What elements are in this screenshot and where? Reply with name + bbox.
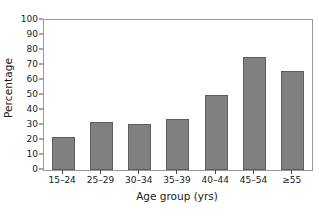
bar [243, 57, 266, 170]
x-axis-tick-mark [253, 170, 254, 174]
y-axis-tick-label: 30 [27, 120, 38, 129]
x-axis-tick-slot [43, 170, 81, 174]
y-axis-tick-label: 100 [21, 15, 38, 24]
x-axis-tick-mark [62, 170, 63, 174]
x-axis-tick-label: 45–54 [234, 175, 272, 188]
y-axis-tick-label: 50 [27, 90, 38, 99]
x-axis-tick-mark [100, 170, 101, 174]
bar-slot [159, 20, 197, 170]
y-axis-tick-label: 60 [27, 75, 38, 84]
x-axis-title: Age group (yrs) [43, 190, 311, 202]
x-axis-tick-marks [43, 170, 311, 174]
bar-slot [274, 20, 312, 170]
y-axis-tick-labels: 0102030405060708090100 [16, 0, 43, 190]
bar-chart-figure: Percentage 0102030405060708090100 15–242… [0, 0, 319, 217]
x-axis-tick-slot [196, 170, 234, 174]
y-axis-tick-label: 70 [27, 60, 38, 69]
y-axis-tick-label: 0 [32, 165, 38, 174]
bar-slot [121, 20, 159, 170]
bar [281, 71, 304, 170]
bar-slot [44, 20, 82, 170]
bar [128, 124, 151, 170]
x-axis-tick-label: ≥55 [273, 175, 311, 188]
x-axis-tick-label: 40–44 [196, 175, 234, 188]
plot-area [43, 19, 313, 171]
x-axis-tick-label: 25–29 [81, 175, 119, 188]
bar [166, 119, 189, 170]
y-axis-tick-label: 40 [27, 105, 38, 114]
bar [90, 122, 113, 170]
x-axis-tick-slot [234, 170, 272, 174]
y-axis-title: Percentage [0, 0, 16, 175]
y-axis-tick-label: 20 [27, 135, 38, 144]
x-axis-tick-slot [273, 170, 311, 174]
bar [205, 95, 228, 170]
y-axis-tick-label: 80 [27, 45, 38, 54]
y-axis-title-text: Percentage [2, 57, 14, 117]
x-axis-tick-label: 30–34 [120, 175, 158, 188]
bar-slot [197, 20, 235, 170]
y-axis-tick-label: 10 [27, 150, 38, 159]
x-axis-tick-labels: 15–2425–2930–3435–3940–4445–54≥55 [43, 175, 311, 188]
x-axis-tick-mark [138, 170, 139, 174]
x-axis-tick-mark [176, 170, 177, 174]
bar-slot [82, 20, 120, 170]
bar [52, 137, 75, 170]
x-axis-tick-mark [291, 170, 292, 174]
y-axis-tick-label: 90 [27, 30, 38, 39]
x-axis-tick-slot [158, 170, 196, 174]
x-axis-tick-slot [120, 170, 158, 174]
x-axis-tick-label: 15–24 [43, 175, 81, 188]
x-axis-tick-mark [215, 170, 216, 174]
x-axis-tick-label: 35–39 [158, 175, 196, 188]
bar-slot [235, 20, 273, 170]
bar-series [44, 20, 312, 170]
x-axis-tick-slot [81, 170, 119, 174]
